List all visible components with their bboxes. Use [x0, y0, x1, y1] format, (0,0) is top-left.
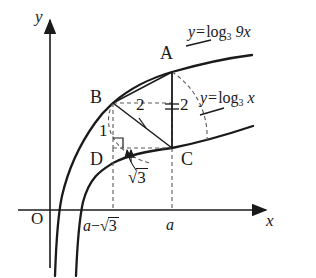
x-axis-label: x [266, 212, 274, 229]
equation-lower-curve: y=log3 x [200, 90, 255, 108]
measure-label-DC: √3 [128, 168, 148, 186]
eq-lower-log: log [218, 89, 238, 106]
eq-lower-base: 3 [239, 97, 244, 108]
measure-label-BC: 2 [136, 96, 145, 113]
tick-radicand: 3 [108, 217, 119, 234]
tick-a-symbol: a [83, 217, 91, 234]
point-label-C: C [181, 150, 193, 168]
tick-minus-symbol: − [91, 217, 100, 234]
y-axis-label: y [35, 8, 43, 25]
point-label-B: B [90, 88, 102, 106]
math-diagram-figure: y x O A B C D 1 2 2 √3 y=log3 9x y=log3 … [0, 0, 316, 278]
x-tick-label-a-minus-sqrt3: a−√3 [83, 217, 119, 234]
measure-label-BD: 1 [99, 122, 108, 139]
point-label-A: A [160, 44, 173, 62]
eq-upper-arg: 9x [236, 23, 251, 40]
diagram-canvas [0, 0, 316, 278]
point-label-D: D [90, 150, 103, 168]
origin-label: O [31, 210, 43, 227]
eq-lower-equals: = [207, 89, 218, 106]
tick-marks-group [139, 104, 179, 128]
measure-label-AC: 2 [180, 96, 189, 113]
radicand-dc: 3 [136, 168, 148, 186]
eq-upper-log: log [206, 23, 226, 40]
x-tick-label-a: a [166, 217, 174, 233]
axes-group [18, 20, 266, 268]
eq-upper-equals: = [195, 23, 206, 40]
eq-lower-arg: x [248, 89, 255, 106]
eq-upper-base: 3 [227, 31, 232, 42]
equation-upper-curve: y=log3 9x [188, 24, 251, 42]
